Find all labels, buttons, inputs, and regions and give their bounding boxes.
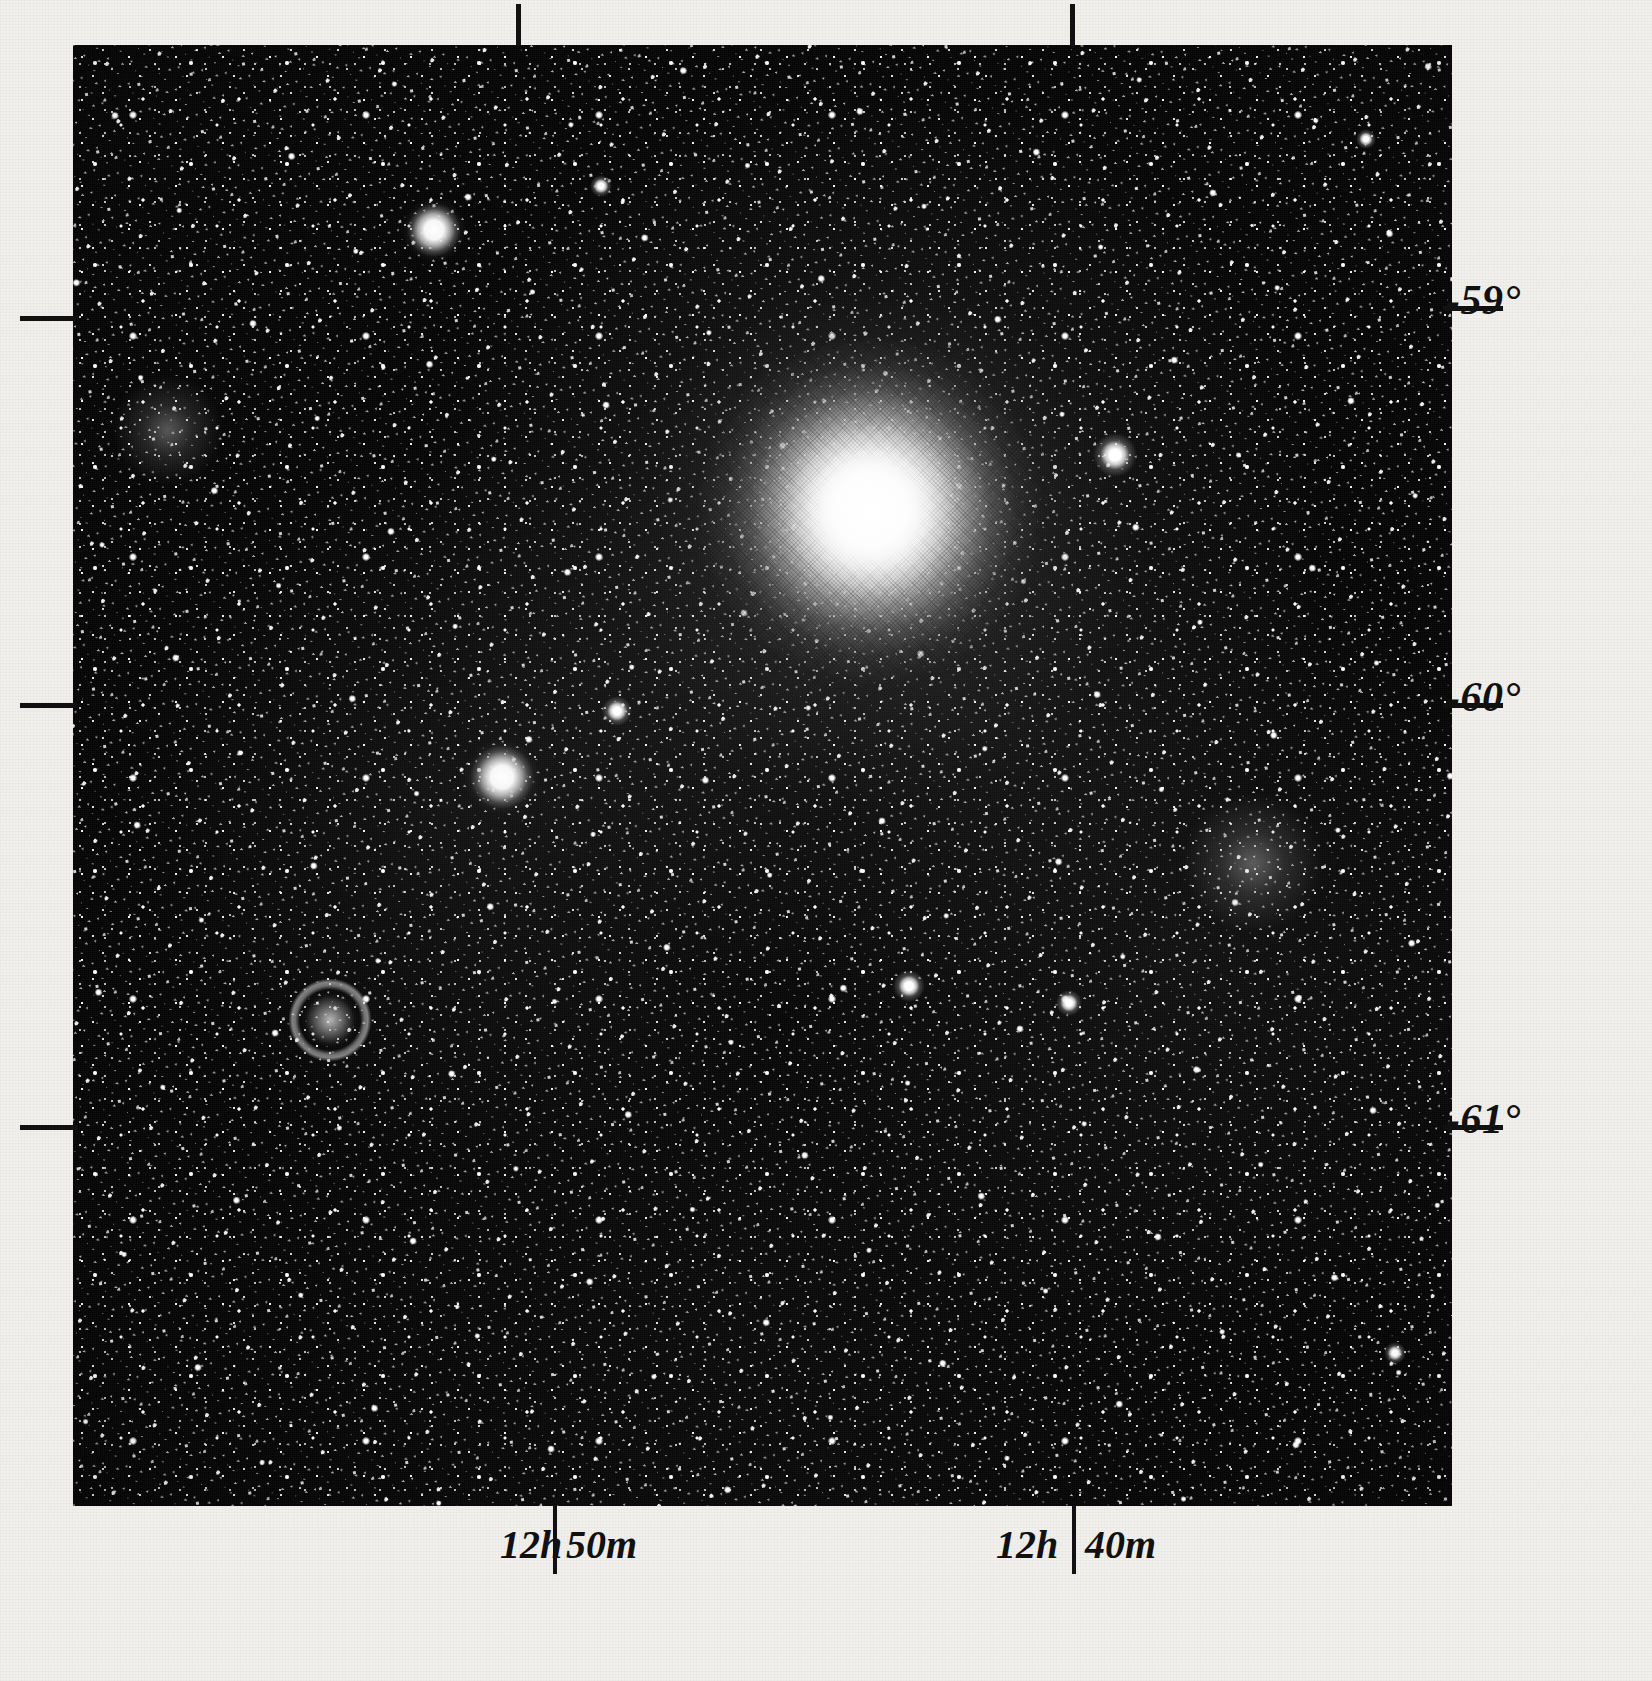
astronomical-plate-figure: -59° -60° -61° 12h 50m 12h 40m [0,0,1652,1681]
sky-plate-image [73,45,1452,1506]
dec-tick-left-60 [20,703,78,708]
ra-label-hours-1250: 12h [500,1521,562,1568]
ra-label-minutes-1240: 40m [1085,1521,1156,1568]
dec-tick-left-61 [20,1125,78,1130]
dec-tick-left-59 [20,316,78,321]
plate-vignette [73,45,1452,1506]
dec-label-59: -59° [1446,276,1521,324]
ra-tick-bottom-1240 [1072,1506,1076,1574]
dec-label-60: -60° [1446,673,1521,721]
ra-tick-top-1250 [516,4,521,46]
ra-label-hours-1240: 12h [996,1521,1058,1568]
ra-label-minutes-1250: 50m [566,1521,637,1568]
dec-label-61: -61° [1446,1095,1521,1143]
ra-tick-top-1240 [1070,4,1075,46]
